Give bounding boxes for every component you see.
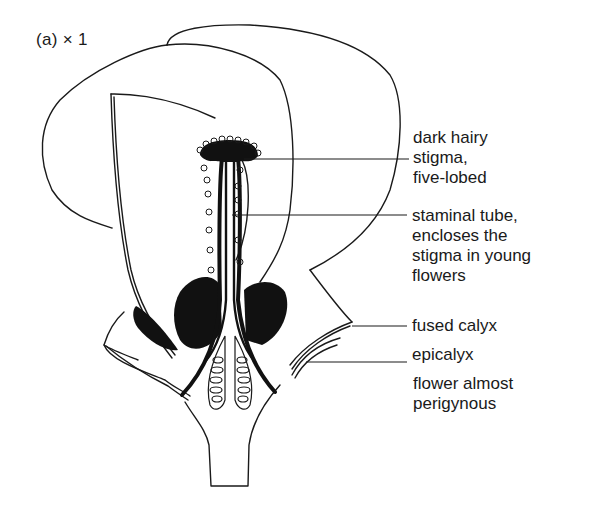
petal-shading-left: [133, 306, 178, 350]
label-perigyny-note: flower almost perigynous: [413, 374, 513, 414]
inner-petal: [111, 94, 215, 118]
label-staminal-tube: staminal tube, encloses the stigma in yo…: [412, 206, 531, 286]
left-outer-petal-top: [167, 44, 293, 282]
figure-caption: (a) × 1: [36, 30, 88, 50]
left-outer-petal: [42, 45, 167, 228]
anther-right: [244, 282, 287, 345]
calyx-right-lobe: [310, 270, 352, 322]
label-epicalyx: epicalyx: [412, 345, 473, 365]
label-stigma: dark hairy stigma, five-lobed: [413, 128, 488, 188]
stalk: [185, 385, 280, 486]
staminal-tube-left: [182, 158, 222, 395]
label-fused-calyx: fused calyx: [412, 316, 497, 336]
